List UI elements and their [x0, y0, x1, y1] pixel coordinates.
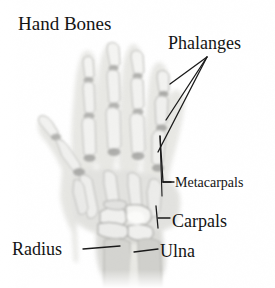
label-radius: Radius	[12, 240, 62, 258]
hand-bones-figure: Hand Bones Phalanges Metacarpals Carpals…	[0, 0, 275, 288]
label-phalanges: Phalanges	[168, 34, 241, 52]
label-ulna: Ulna	[160, 242, 195, 260]
page-title: Hand Bones	[18, 14, 111, 33]
label-carpals: Carpals	[172, 212, 227, 230]
label-metacarpals: Metacarpals	[175, 176, 243, 190]
